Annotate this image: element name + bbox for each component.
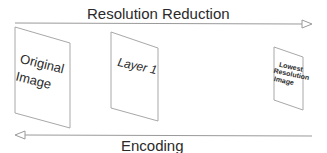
encoding-label: Encoding: [121, 137, 184, 153]
resolution-reduction-label: Resolution Reduction: [87, 5, 230, 22]
layer-1-panel: [111, 32, 158, 121]
arrowhead-left-icon: [15, 131, 25, 139]
arrowhead-right-icon: [302, 20, 312, 28]
